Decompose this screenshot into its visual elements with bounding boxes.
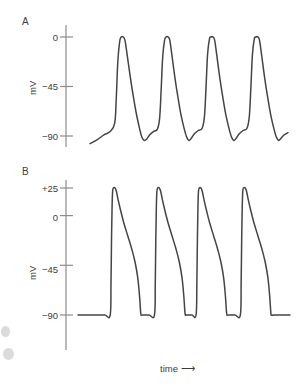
- plot-svg: [0, 0, 301, 390]
- panel-b-trace: [78, 188, 290, 318]
- panel-a-trace: [90, 36, 288, 143]
- figure-container: A B mV mV 0 −45 −90 +25 0 −45 −90 time ⟶: [0, 0, 301, 390]
- panel-b-axes: [60, 180, 73, 350]
- panel-a-axes: [60, 25, 73, 147]
